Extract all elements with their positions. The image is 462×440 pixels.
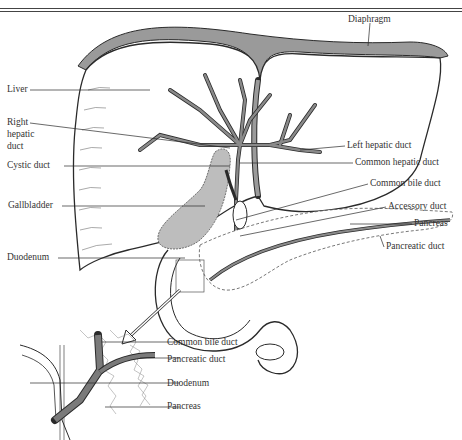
label-pancreatic-duct: Pancreatic duct [386,241,444,252]
label-cystic-duct: Cystic duct [7,160,50,171]
inset-label-pancreatic-duct: Pancreatic duct [167,354,225,365]
label-right-hepatic-duct-2: hepatic [7,129,34,140]
label-duodenum: Duodenum [7,252,49,263]
label-common-hepatic-duct: Common hepatic duct [355,157,439,168]
inset-label-common-bile-duct: Common bile duct [167,337,238,348]
label-pancreas: Pancreas [414,218,448,229]
anatomy-illustration [0,0,462,440]
label-accessory-duct: Accessory duct [388,201,446,212]
inset-label-duodenum: Duodenum [167,378,209,389]
label-left-hepatic-duct: Left hepatic duct [347,140,411,151]
inset-label-pancreas: Pancreas [167,401,201,412]
label-right-hepatic-duct-3: duct [7,141,23,152]
label-diaphragm: Diaphragm [348,14,391,25]
inset-illustration [20,330,155,440]
label-common-bile-duct: Common bile duct [370,178,441,189]
label-right-hepatic-duct-1: Right [7,117,28,128]
label-gallbladder: Gallbladder [8,200,53,211]
label-liver: Liver [7,84,28,95]
